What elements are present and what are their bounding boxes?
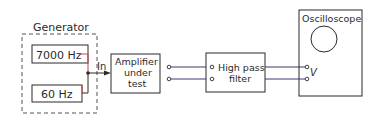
source-60hz-label: 60 Hz [41, 88, 73, 101]
scope-input-terminal-top [305, 65, 309, 69]
scope-input-terminal-bottom [305, 77, 309, 81]
oscilloscope-screen [311, 26, 337, 52]
filter-input-terminal-top [210, 65, 214, 69]
oscilloscope-label: Oscilloscope [302, 13, 361, 24]
amplifier-output-terminal-top [167, 65, 171, 69]
filter-label-1: High pass [218, 62, 265, 73]
filter-input-terminal-bottom [210, 77, 214, 81]
amplifier-label-2: under [124, 67, 152, 78]
lead-60hz [82, 73, 88, 93]
filter-block: High pass filter [206, 53, 265, 92]
amplifier-block: Amplifier under test [111, 54, 171, 93]
scope-input-label: V [310, 67, 318, 78]
amplifier-output-terminal-bottom [167, 77, 171, 81]
oscilloscope-block: Oscilloscope V [299, 10, 362, 96]
block-diagram: Generator 7000 Hz 60 Hz In Amplifier und… [0, 0, 380, 122]
amplifier-label-3: test [128, 78, 147, 89]
source-7000hz-label: 7000 Hz [36, 49, 82, 62]
filter-label-2: filter [229, 73, 251, 84]
generator-label: Generator [33, 21, 89, 34]
amplifier-label-1: Amplifier [115, 56, 158, 67]
generator-group: Generator 7000 Hz 60 Hz [22, 21, 97, 113]
input-label: In [97, 61, 106, 72]
